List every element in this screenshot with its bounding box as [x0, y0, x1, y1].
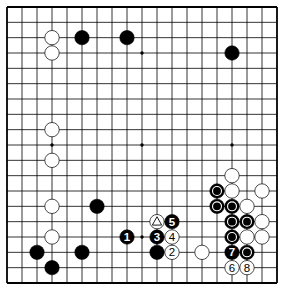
white-stone	[255, 230, 269, 244]
black-stone: 1	[120, 230, 134, 244]
white-stone	[255, 214, 269, 228]
black-stone	[120, 30, 134, 44]
move-number: 7	[229, 246, 235, 258]
white-stone	[240, 199, 254, 213]
star-point	[140, 235, 143, 238]
move-number: 6	[229, 262, 235, 274]
white-stone	[45, 122, 59, 136]
white-stone: 2	[165, 245, 179, 259]
move-number: 5	[169, 216, 176, 228]
black-stone	[90, 199, 104, 213]
white-stone	[225, 184, 239, 198]
move-number: 8	[244, 262, 250, 274]
go-board: 51342768	[0, 0, 287, 296]
black-stone	[240, 245, 254, 259]
white-stone	[45, 46, 59, 60]
white-stone	[45, 199, 59, 213]
black-stone	[150, 245, 164, 259]
star-point	[140, 143, 143, 146]
white-stone	[255, 184, 269, 198]
white-stone	[240, 230, 254, 244]
black-stone	[240, 214, 254, 228]
black-stone	[75, 30, 89, 44]
move-number: 4	[169, 231, 176, 243]
black-stone	[225, 214, 239, 228]
white-stone	[45, 230, 59, 244]
move-number: 1	[124, 231, 131, 243]
black-stone	[225, 46, 239, 60]
black-stone	[45, 260, 59, 274]
move-number: 2	[169, 246, 175, 258]
move-number: 3	[154, 231, 160, 243]
black-stone: 7	[225, 245, 239, 259]
white-stone: 6	[225, 260, 239, 274]
black-stone	[30, 245, 44, 259]
star-point	[140, 51, 143, 54]
black-stone	[225, 230, 239, 244]
black-stone	[75, 245, 89, 259]
star-point	[230, 143, 233, 146]
go-board-diagram: Go board diagram 51342768	[0, 0, 287, 296]
white-stone	[195, 245, 209, 259]
white-stone	[45, 153, 59, 167]
black-stone	[225, 199, 239, 213]
black-stone	[210, 184, 224, 198]
white-stone	[225, 168, 239, 182]
star-point	[50, 143, 53, 146]
black-stone	[210, 199, 224, 213]
white-stone	[45, 30, 59, 44]
black-stone: 5	[165, 214, 179, 228]
white-stone: 4	[165, 230, 179, 244]
black-stone: 3	[150, 230, 164, 244]
white-stone	[150, 214, 164, 228]
white-stone: 8	[240, 260, 254, 274]
